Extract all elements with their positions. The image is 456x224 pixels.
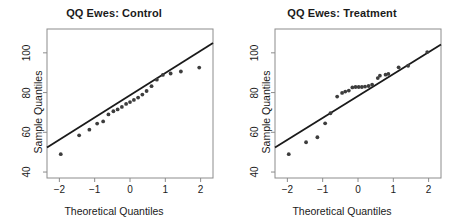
data-point [370,83,374,87]
data-point [136,96,140,100]
y-tick-label: 60 [14,126,40,138]
panel-control: QQ Ewes: Control Sample Quantiles Theore… [0,0,228,224]
data-point [287,152,291,156]
data-point [329,111,333,115]
y-tick-label: 80 [14,87,40,99]
x-tick-label: 0 [355,184,361,195]
data-point [169,72,173,76]
x-tick-label: 2 [426,184,432,195]
data-point [347,89,351,93]
data-point [397,65,401,69]
y-axis-title-control: Sample Quantiles [32,42,44,182]
data-point [112,109,116,113]
y-axis-title-wrap-treatment: Sample Quantiles [242,0,256,224]
x-tick-label: −1 [317,184,328,195]
x-axis-title-control: Theoretical Quantiles [0,205,228,217]
data-point [87,128,91,132]
x-tick-label: 2 [198,184,204,195]
data-point [132,98,136,102]
data-point [315,135,319,139]
x-tick-label: −2 [282,184,293,195]
y-axis-title-treatment: Sample Quantiles [260,42,272,182]
y-tick-label: 40 [242,166,268,178]
x-tick-label: −1 [89,184,100,195]
plot-frame [275,29,441,178]
data-point [406,64,410,68]
data-point [116,108,120,112]
y-tick-label: 40 [14,166,40,178]
data-point [140,93,144,97]
data-point [304,140,308,144]
data-point [124,102,128,106]
data-point [150,84,154,88]
data-point [343,90,347,94]
data-point [77,133,81,137]
data-point [128,100,132,104]
data-point [120,105,124,109]
qq-reference-line [47,43,213,147]
data-point [425,50,429,54]
y-tick-label: 60 [242,126,268,138]
y-tick-label: 100 [242,47,268,59]
data-point [145,89,149,93]
data-point [107,113,111,117]
data-point [155,78,159,82]
data-point [363,85,367,89]
x-axis-title-treatment: Theoretical Quantiles [228,205,456,217]
data-point [179,70,183,74]
data-point [323,121,327,125]
data-point [95,122,99,126]
y-tick-label: 80 [242,87,268,99]
data-point [367,84,371,88]
panel-treatment: QQ Ewes: Treatment Sample Quantiles Theo… [228,0,456,224]
y-axis-title-wrap-control: Sample Quantiles [14,0,28,224]
x-tick-label: −2 [54,184,65,195]
data-point [335,95,339,99]
qq-plot-figure: QQ Ewes: Control Sample Quantiles Theore… [0,0,456,224]
x-tick-label: 1 [163,184,169,195]
data-point [59,152,63,156]
data-point [101,119,105,123]
data-point [197,66,201,70]
x-tick-label: 0 [127,184,133,195]
data-point [378,74,382,78]
data-point [386,72,390,76]
qq-reference-line [275,44,441,147]
y-tick-label: 100 [14,47,40,59]
x-tick-label: 1 [391,184,397,195]
data-point [161,73,165,77]
